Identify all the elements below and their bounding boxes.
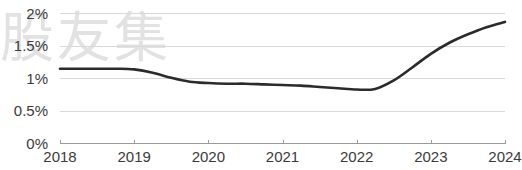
y-axis-tick-label: 1%: [26, 70, 48, 87]
axes-group: [60, 140, 506, 144]
x-axis-tick-label: 2021: [266, 148, 299, 165]
x-axis-tick-label: 2024: [488, 148, 521, 165]
data-series-group: [60, 22, 505, 90]
x-axis-tick-label: 2022: [340, 148, 373, 165]
x-axis-tick-label: 2023: [414, 148, 447, 165]
x-axis-tick-label: 2020: [192, 148, 225, 165]
x-axis-tick-label: 2018: [43, 148, 76, 165]
y-axis-tick-label: 1.5%: [14, 37, 48, 54]
gridlines-group: [60, 14, 505, 112]
y-axis-tick-label: 0.5%: [14, 102, 48, 119]
x-axis-tick-label: 2019: [117, 148, 150, 165]
series-line: [60, 22, 505, 90]
y-axis-tick-label: 2%: [26, 5, 48, 22]
